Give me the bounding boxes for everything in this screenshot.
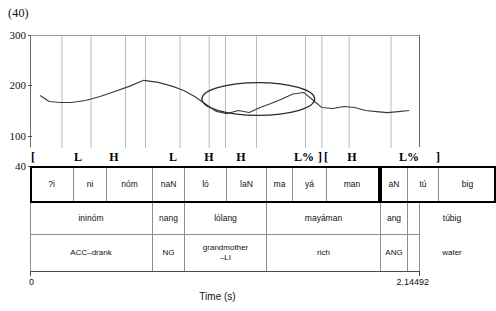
cell-text: ininóm — [77, 214, 104, 224]
cell-text: water — [441, 248, 463, 257]
cell-text: ang — [386, 214, 402, 224]
tier-right-edge — [419, 203, 420, 271]
cell-text: ?i — [47, 180, 56, 190]
tier-left-edge — [30, 203, 31, 271]
cell-text: grandmother–LI — [202, 243, 249, 261]
cell-text: lólang — [213, 214, 238, 224]
syllable-cell: big — [438, 166, 496, 203]
syllable-cell: yá — [292, 166, 326, 203]
cell-text: big — [461, 180, 474, 190]
pitch-track-svg — [31, 36, 421, 148]
word-cell: mayáman — [266, 203, 380, 234]
syllable-cell: aN — [380, 166, 407, 203]
cell-text: nang — [158, 214, 179, 224]
time-start-label: 0 — [29, 277, 34, 287]
tone-label: H — [333, 148, 371, 166]
cell-text: rich — [316, 248, 331, 257]
tone-label: H — [225, 148, 257, 166]
word-cell: ininóm — [30, 203, 152, 234]
annotation-tiers: ?ininómnaNlólaNmayámanaNtúbig ininómnang… — [30, 166, 420, 271]
tone-label: H — [193, 148, 225, 166]
tone-label: L% — [257, 148, 315, 166]
gloss-cell: ACC–drank — [30, 234, 152, 271]
y-tick-label: 40 — [0, 160, 26, 172]
highlight-ellipse — [202, 83, 315, 116]
cell-text: túbig — [442, 214, 462, 224]
gloss-cell: water — [407, 234, 496, 271]
y-tick-label: 300 — [0, 29, 26, 41]
syllable-cell: ma — [266, 166, 292, 203]
word-cell: túbig — [407, 203, 496, 234]
pitch-plot — [30, 35, 420, 147]
tone-label: ] — [314, 148, 323, 166]
y-tick-label: 100 — [0, 130, 26, 142]
cell-text: NG — [162, 248, 176, 257]
cell-text: ni — [86, 180, 95, 190]
y-tick-label: 200 — [0, 79, 26, 91]
syllable-tier: ?ininómnaNlólaNmayámanaNtúbig — [30, 166, 420, 203]
cell-text: ló — [201, 180, 210, 190]
gloss-tier: ACC–drankNGgrandmother–LIrichANGwater — [30, 234, 420, 271]
tone-label: L — [60, 148, 96, 166]
word-cell: ang — [380, 203, 407, 234]
example-number: (40) — [8, 6, 29, 21]
syllable-cell: tú — [407, 166, 438, 203]
syllable-cell: nóm — [106, 166, 152, 203]
syllable-cell: ló — [184, 166, 226, 203]
tone-tier: [LHLHHL%][HL%] — [30, 148, 420, 166]
tier-divider — [30, 234, 420, 235]
time-end-label: 2.14492 — [396, 277, 429, 287]
tone-label: L% — [371, 148, 420, 166]
tone-label: H — [96, 148, 132, 166]
tone-label: ] — [428, 148, 441, 166]
cell-text: yá — [304, 180, 315, 190]
word-cell: nang — [152, 203, 184, 234]
word-tier: ininómnanglólangmayámanangtúbig — [30, 203, 420, 234]
gloss-cell: rich — [266, 234, 380, 271]
syllable-cell: man — [326, 166, 377, 203]
cell-text: aN — [388, 180, 401, 190]
cell-text: ma — [273, 180, 287, 190]
syllable-cell: ?i — [30, 166, 73, 203]
cell-text: mayáman — [304, 214, 343, 224]
tone-label: L — [153, 148, 193, 166]
time-axis-line — [30, 271, 420, 272]
time-axis-title: Time (s) — [0, 291, 435, 302]
cell-text: naN — [160, 180, 178, 190]
cell-text: nóm — [120, 180, 139, 190]
time-tick-end — [419, 271, 420, 276]
cell-text: laN — [239, 180, 254, 190]
cell-text: tú — [418, 180, 427, 190]
cell-text: man — [343, 180, 362, 190]
time-tick-start — [30, 271, 31, 276]
gloss-cell: NG — [152, 234, 184, 271]
gloss-cell: grandmother–LI — [184, 234, 266, 271]
cell-text: ACC–drank — [69, 248, 112, 257]
gloss-cell: ANG — [380, 234, 407, 271]
syllable-cell: naN — [152, 166, 184, 203]
cell-text: ANG — [384, 248, 403, 257]
tone-label: [ — [30, 148, 61, 166]
syllable-cell: laN — [226, 166, 266, 203]
word-cell: lólang — [184, 203, 266, 234]
syllable-cell: ni — [73, 166, 106, 203]
